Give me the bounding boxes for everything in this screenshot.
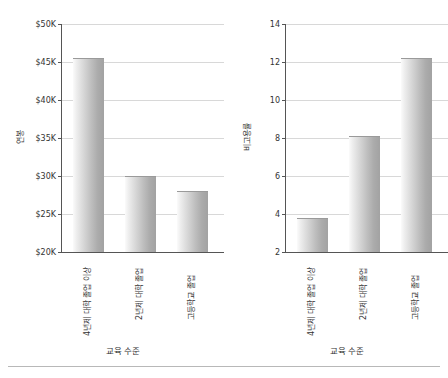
- bar-4year-degree: [73, 58, 104, 253]
- chart-panel-unemployment: 비고용률 14 12 10 8 6 4 2: [224, 0, 448, 378]
- y-tick-label: 8: [246, 134, 280, 143]
- y-tick-label: $40K: [16, 96, 56, 105]
- figure-canvas: 연봉 $50K $45K $40K $35K $30K $25K $20K: [0, 0, 448, 378]
- x-tick-label-4year: 4년제 대학 졸업 이상: [81, 267, 92, 336]
- bar-4year-degree: [297, 218, 328, 253]
- plot-area: [62, 24, 224, 252]
- bar-2year-degree: [125, 176, 156, 253]
- y-tick-label: 2: [246, 248, 280, 257]
- y-tick-label: $20K: [16, 248, 56, 257]
- y-axis-line: [285, 24, 286, 253]
- bottom-divider: [8, 366, 440, 367]
- gridline: [62, 24, 224, 25]
- y-tick-label: $35K: [16, 134, 56, 143]
- y-tick-label: 6: [246, 172, 280, 181]
- x-axis-line: [285, 252, 448, 253]
- bar-highschool: [401, 58, 432, 253]
- y-tick-label: 4: [246, 210, 280, 219]
- y-axis-line: [61, 24, 62, 253]
- y-tick-label: 12: [246, 58, 280, 67]
- x-axis-title: 교육 수준: [307, 344, 387, 356]
- bar-highschool: [177, 191, 208, 253]
- x-tick-label-highschool: 고등학교 졸업: [185, 275, 196, 320]
- y-tick-label: $30K: [16, 172, 56, 181]
- gridline: [286, 24, 448, 25]
- x-tick-label-highschool: 고등학교 졸업: [409, 275, 420, 320]
- y-tick-label: 14: [246, 20, 280, 29]
- x-tick-label-2year: 2년제 대학 졸업: [133, 268, 144, 320]
- y-tick-label: $25K: [16, 210, 56, 219]
- x-tick-label-2year: 2년제 대학 졸업: [357, 268, 368, 320]
- bar-2year-degree: [349, 136, 380, 253]
- chart-panel-salary: 연봉 $50K $45K $40K $35K $30K $25K $20K: [0, 0, 224, 378]
- y-tick-label: $50K: [16, 20, 56, 29]
- y-tick-label: 10: [246, 96, 280, 105]
- plot-area: [286, 24, 448, 252]
- x-tick-label-4year: 4년제 대학 졸업 이상: [305, 267, 316, 336]
- x-axis-title: 교육 수준: [83, 344, 163, 356]
- x-axis-line: [61, 252, 224, 253]
- y-tick-label: $45K: [16, 58, 56, 67]
